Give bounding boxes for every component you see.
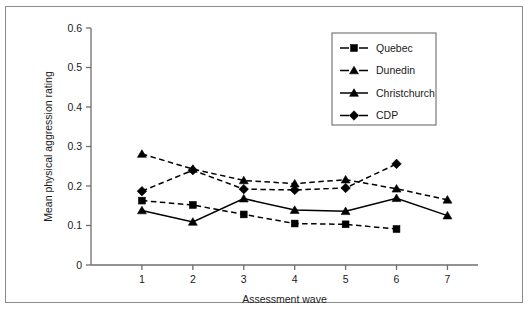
- marker-triangle: [392, 194, 401, 202]
- legend-group: QuebecDunedinChristchurchCDP: [332, 33, 436, 125]
- marker-triangle: [341, 175, 350, 183]
- series-group: [137, 150, 452, 233]
- marker-square: [189, 202, 196, 209]
- marker-diamond: [137, 186, 147, 196]
- marker-triangle: [137, 150, 146, 158]
- figure-container: 00.10.20.30.40.50.61234567Assessment wav…: [0, 0, 529, 311]
- series-quebec: [139, 197, 400, 232]
- x-tick-label: 5: [343, 273, 349, 285]
- marker-diamond: [239, 184, 249, 194]
- y-tick-label: 0.1: [67, 219, 82, 231]
- y-tick-label: 0.2: [67, 180, 82, 192]
- legend-label: Dunedin: [376, 64, 415, 76]
- legend-label: Quebec: [376, 42, 413, 54]
- x-tick-label: 6: [394, 273, 400, 285]
- marker-square: [351, 45, 358, 52]
- x-tick-label: 4: [292, 273, 298, 285]
- x-tick-label: 3: [241, 273, 247, 285]
- marker-square: [240, 211, 247, 218]
- y-tick-label: 0.6: [67, 22, 82, 34]
- series-line: [142, 164, 397, 191]
- marker-diamond: [188, 165, 198, 175]
- marker-diamond: [392, 159, 402, 169]
- x-tick-label: 1: [139, 273, 145, 285]
- legend-label: Christchurch: [376, 87, 435, 99]
- legend-label: CDP: [376, 109, 398, 121]
- marker-square: [139, 197, 146, 204]
- chart-canvas: 00.10.20.30.40.50.61234567Assessment wav…: [0, 0, 529, 311]
- marker-square: [393, 226, 400, 233]
- x-tick-label: 2: [190, 273, 196, 285]
- y-tick-label: 0.5: [67, 61, 82, 73]
- x-axis-title: Assessment wave: [242, 293, 327, 305]
- marker-triangle: [137, 206, 146, 214]
- marker-square: [291, 220, 298, 227]
- x-tick-label: 7: [445, 273, 451, 285]
- y-tick-label: 0: [76, 259, 82, 271]
- marker-triangle: [239, 194, 248, 202]
- y-tick-label: 0.3: [67, 140, 82, 152]
- marker-square: [342, 221, 349, 228]
- y-tick-label: 0.4: [67, 101, 82, 113]
- marker-diamond: [341, 183, 351, 193]
- y-axis-title: Mean physical aggression rating: [42, 71, 54, 222]
